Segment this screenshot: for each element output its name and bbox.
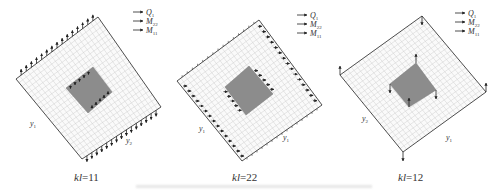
axis-label-second: y2 bbox=[125, 136, 133, 146]
panel-kl22: y1y1Q1M22M11 bbox=[177, 11, 322, 161]
figure-caption-faint bbox=[136, 185, 372, 188]
axis-label-second: y1 bbox=[282, 133, 290, 143]
legend-label: M11 bbox=[467, 27, 480, 37]
panel-kl12: y2y1Q1M22M11 bbox=[340, 9, 486, 161]
legend-label: M11 bbox=[145, 26, 158, 36]
axis-label-first: y1 bbox=[198, 124, 206, 134]
figure-canvas: y1y2Q1M22M11 y1y1Q1M22M11 y2y1Q1M22M11 bbox=[0, 0, 498, 196]
axis-label-first: y2 bbox=[361, 114, 369, 124]
axis-label-first: y1 bbox=[29, 119, 37, 129]
legend-label: M11 bbox=[309, 29, 322, 39]
panel-kl11: y1y2Q1M22M11 bbox=[16, 8, 161, 162]
panel-label-kl12: kl=12 bbox=[398, 171, 423, 183]
panel-label-kl22: kl=22 bbox=[232, 171, 257, 183]
panel-label-kl11: kl=11 bbox=[74, 171, 99, 183]
axis-label-second: y1 bbox=[445, 133, 453, 143]
